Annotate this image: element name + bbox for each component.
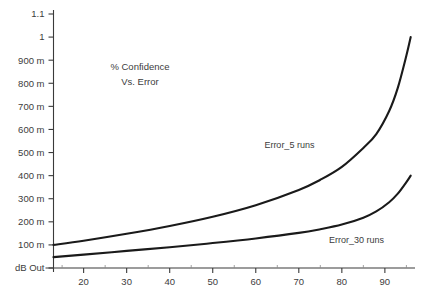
y-axis-tick-label: 1: [39, 31, 44, 42]
x-axis-tick-label: 80: [337, 276, 348, 287]
series-label: Error_30 runs: [329, 235, 385, 245]
y-axis-tick-label: 600 m: [18, 124, 44, 135]
y-axis-tick-label: 500 m: [18, 147, 44, 158]
x-axis-tick-label: 20: [78, 276, 89, 287]
data-curves: [54, 37, 411, 257]
x-axis-tick-label: 50: [207, 276, 218, 287]
y-axis-tick-label: 300 m: [18, 193, 44, 204]
y-axis-tick-label: 1.1: [31, 8, 44, 19]
y-axis-tick-label: 900 m: [18, 55, 44, 66]
chart-container: 1.11900 m800 m700 m600 m500 m400 m300 m2…: [0, 0, 425, 290]
x-axis-tick-label: 70: [294, 276, 305, 287]
x-axis-tick-label: 40: [164, 276, 175, 287]
x-axis: 2030405060708090: [46, 265, 416, 287]
chart-title-line: Vs. Error: [121, 76, 158, 87]
x-axis-tick-label: 60: [250, 276, 261, 287]
series-label: Error_5 runs: [264, 140, 315, 150]
chart-title: % ConfidenceVs. Error: [110, 61, 169, 87]
data-curve: [54, 37, 411, 245]
y-axis-tick-label: 200 m: [18, 216, 44, 227]
chart-title-line: % Confidence: [110, 61, 169, 72]
x-axis-tick-label: 90: [380, 276, 391, 287]
y-axis-tick-label: dB Out: [15, 262, 45, 273]
y-axis-tick-label: 800 m: [18, 78, 44, 89]
x-axis-tick-label: 30: [121, 276, 132, 287]
y-axis-tick-label: 400 m: [18, 170, 44, 181]
y-axis-tick-label: 700 m: [18, 101, 44, 112]
confidence-vs-error-chart: 1.11900 m800 m700 m600 m500 m400 m300 m2…: [0, 0, 425, 290]
y-axis: 1.11900 m800 m700 m600 m500 m400 m300 m2…: [15, 8, 54, 273]
y-axis-tick-label: 100 m: [18, 239, 44, 250]
